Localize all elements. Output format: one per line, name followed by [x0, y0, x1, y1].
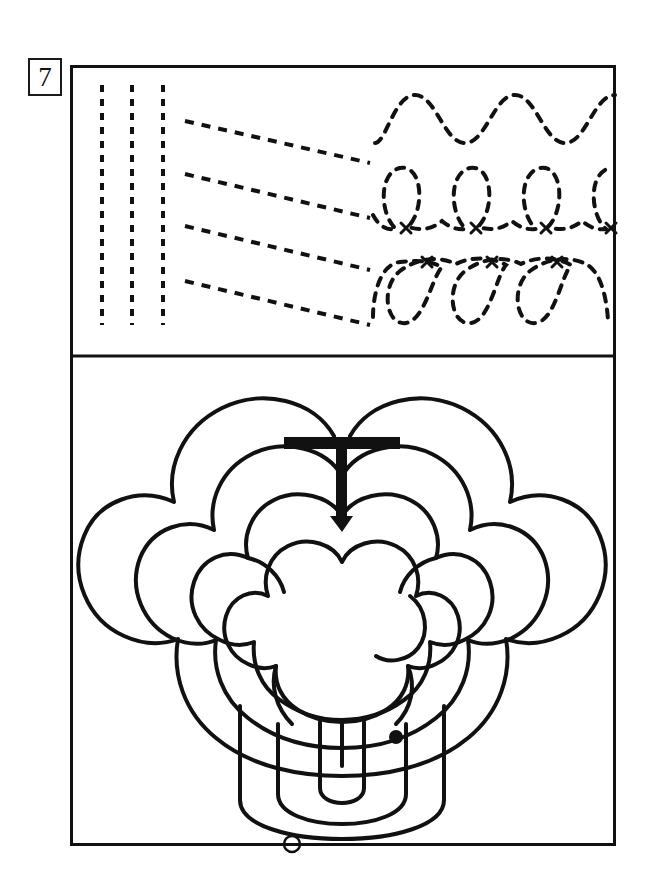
- x-mark: [401, 223, 411, 233]
- arrow-head: [330, 516, 353, 532]
- worksheet-page: 7: [0, 0, 648, 889]
- diagonal-dashed-line: [185, 121, 370, 163]
- diagonal-lines-group: [185, 121, 370, 325]
- upward-loops-row-group: [373, 168, 616, 233]
- trefoil-maze-svg: [70, 356, 616, 846]
- maze-panel: [70, 356, 616, 846]
- exercise-frame: [70, 65, 616, 846]
- tracing-exercises-svg: [70, 65, 616, 356]
- wave-row-group: [375, 95, 615, 143]
- maze-wall-segment: [376, 596, 425, 660]
- x-mark: [471, 223, 481, 233]
- diagonal-dashed-line: [185, 226, 370, 270]
- page-number-box: 7: [28, 58, 62, 96]
- downward-loops-row-group: [373, 257, 608, 323]
- page-number-label: 7: [38, 64, 52, 91]
- diagonal-dashed-line: [185, 174, 370, 218]
- tracing-panel: [70, 65, 616, 356]
- upward-loops-dashed-path: [373, 168, 610, 229]
- maze-wall-segment: [396, 666, 412, 724]
- diagonal-dashed-line: [185, 281, 370, 325]
- open-circle-marker: [284, 836, 300, 852]
- sine-wave-dashed-path: [375, 95, 615, 143]
- downward-loops-dashed-path: [373, 259, 608, 324]
- filled-dot-marker: [389, 730, 403, 744]
- vertical-lines-group: [102, 85, 163, 325]
